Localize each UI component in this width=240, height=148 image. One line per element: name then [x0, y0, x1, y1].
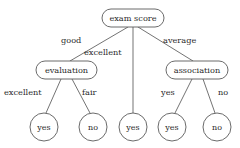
decision-tree-figure: good excellent average excellent fair ye… [0, 0, 240, 148]
edge-label-yes-association: yes [160, 87, 175, 97]
leaf-node-no-2[interactable]: no [203, 113, 231, 141]
nodes-group: exam score evaluation association yes no [30, 9, 231, 141]
decision-tree-svg: good excellent average excellent fair ye… [0, 0, 240, 148]
edge-label-fair: fair [82, 87, 97, 97]
leaf-node-no-1[interactable]: no [79, 113, 107, 141]
node-evaluation[interactable]: evaluation [36, 61, 97, 79]
node-evaluation-label: evaluation [45, 65, 89, 75]
edge-label-excellent-root: excellent [84, 47, 122, 57]
edge-label-excellent-eval: excellent [4, 87, 42, 97]
leaf-node-yes-3-label: yes [164, 123, 178, 132]
leaf-node-yes-1-label: yes [36, 123, 50, 132]
edge-label-good: good [61, 35, 81, 45]
node-exam-score[interactable]: exam score [102, 9, 164, 27]
edge-label-average: average [163, 35, 196, 45]
node-exam-score-label: exam score [109, 13, 156, 23]
edge-label-no-association: no [218, 87, 228, 97]
edge-association-to-leaf-no [203, 79, 215, 113]
leaf-node-no-2-label: no [212, 123, 222, 132]
node-association[interactable]: association [166, 61, 228, 79]
leaf-node-yes-3[interactable]: yes [158, 113, 186, 141]
edge-association-to-leaf-yes [175, 79, 192, 113]
leaf-node-yes-2-label: yes [125, 123, 139, 132]
edge-evaluation-to-leaf-yes [46, 79, 61, 113]
leaf-node-yes-2[interactable]: yes [119, 113, 147, 141]
node-association-label: association [174, 65, 221, 75]
leaf-node-yes-1[interactable]: yes [30, 113, 58, 141]
leaf-node-no-1-label: no [88, 123, 98, 132]
